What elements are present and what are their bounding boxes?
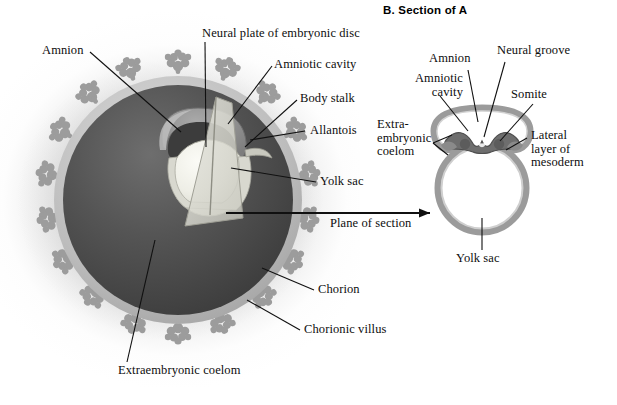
panel-b-title: B. Section of A	[383, 4, 467, 16]
label-b-amnion: Amnion	[429, 52, 471, 66]
figure-root: B. Section of A Amnion Neural plate of e…	[0, 0, 617, 405]
leader-b-somite	[500, 104, 533, 141]
label-allantois: Allantois	[310, 124, 357, 138]
label-b-neural-groove: Neural groove	[497, 44, 570, 58]
label-b-lateral-layer-of-mesoderm: Lateral layer of mesoderm	[531, 129, 601, 170]
plane-of-section-arrow-head	[419, 209, 430, 218]
label-b-extraembryonic-line1: Extra-	[377, 117, 409, 131]
leader-b-amniotic-cavity	[440, 96, 468, 131]
label-neural-plate-of-embryonic-disc: Neural plate of embryonic disc	[202, 27, 360, 41]
label-chorionic-villus: Chorionic villus	[304, 323, 387, 337]
label-yolk-sac-panel-a: Yolk sac	[320, 175, 364, 189]
label-b-lateral-mesoderm-line2: layer of	[531, 142, 570, 156]
leader-yolk-sac-a	[231, 168, 316, 182]
leader-chorionic-villus	[247, 300, 300, 330]
leader-amnion	[90, 52, 181, 132]
label-b-lateral-mesoderm-line3: mesoderm	[531, 155, 584, 169]
label-chorion: Chorion	[318, 283, 360, 297]
leader-b-amnion	[468, 70, 478, 122]
label-b-extraembryonic-line3: coelom	[377, 144, 414, 158]
leader-amniotic-cavity	[228, 66, 272, 124]
label-b-extraembryonic-coelom: Extra- embryonic coelom	[377, 118, 435, 159]
label-plane-of-section: Plane of section	[330, 217, 411, 231]
leader-b-extraembryonic-1	[433, 135, 452, 143]
label-b-amniotic-cavity-line2: cavity	[432, 85, 463, 99]
label-body-stalk: Body stalk	[300, 92, 355, 106]
leader-extraembryonic-coelom	[127, 240, 155, 362]
leader-b-extraembryonic-2	[433, 143, 448, 155]
leader-chorion	[262, 268, 314, 290]
label-amnion: Amnion	[42, 44, 84, 58]
leader-b-neural-groove	[484, 62, 505, 137]
label-amniotic-cavity: Amniotic cavity	[274, 58, 356, 72]
label-b-amniotic-cavity: Amniotic cavity	[403, 72, 463, 99]
leader-neural-plate	[205, 42, 206, 147]
label-b-somite: Somite	[511, 88, 547, 102]
leader-b-lateral-mesoderm	[506, 138, 527, 150]
label-b-lateral-mesoderm-line1: Lateral	[531, 128, 567, 142]
label-b-amniotic-cavity-line1: Amniotic	[415, 71, 463, 85]
label-extraembryonic-coelom: Extraembryonic coelom	[118, 364, 241, 378]
label-b-extraembryonic-line2: embryonic	[377, 131, 431, 145]
label-b-yolk-sac: Yolk sac	[456, 252, 500, 266]
